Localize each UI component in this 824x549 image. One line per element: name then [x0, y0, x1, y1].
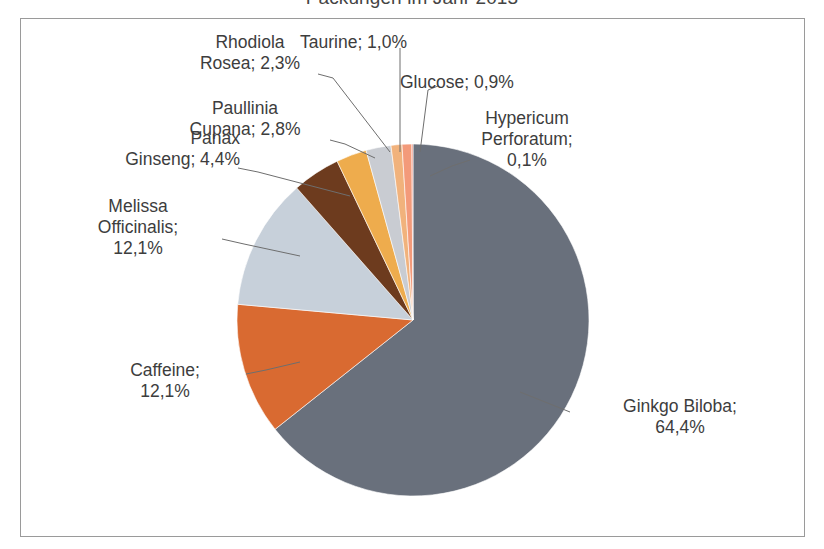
leader-line-glucose [420, 86, 438, 152]
pie-chart: Packungen im Jahr 2013 Rhodiola Rosea; 2… [0, 0, 824, 549]
pie-slice-group [237, 144, 589, 496]
pie-svg [0, 0, 824, 549]
pie-plot-area [0, 0, 824, 549]
leader-line-rhodiola [318, 74, 390, 152]
